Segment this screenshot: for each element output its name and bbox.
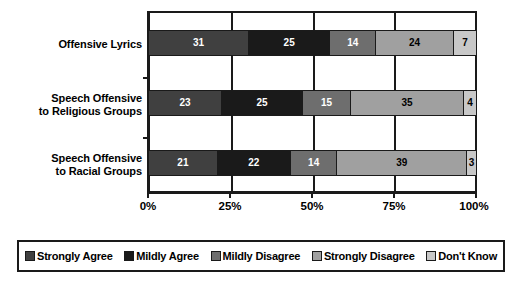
stacked-bar-chart: Offensive Lyrics Speech Offensive to Rel… [0,0,521,291]
bar-segment-value: 25 [284,38,295,48]
x-tick-100 [475,192,477,198]
y-minor-tick-2 [143,137,149,139]
bar-segment: 14 [291,150,338,176]
bar-row: 232515354 [148,90,477,116]
bar-segment-value: 14 [308,158,319,168]
category-label-line: Speech Offensive [8,152,142,165]
chart-legend: Strongly AgreeMildly AgreeMildly Disagre… [17,240,505,272]
x-tick-label-25: 25% [200,200,260,212]
legend-swatch-icon [211,251,221,261]
bar-row: 312514247 [148,30,477,56]
legend-swatch-icon [426,251,436,261]
bar-row: 212214393 [148,150,477,176]
x-tick-label-100: 100% [444,200,504,212]
legend-label: Strongly Disagree [324,250,415,262]
bar-segment-value: 21 [177,158,188,168]
bar-segment-value: 24 [409,38,420,48]
bar-segment-value: 25 [256,98,267,108]
bar-segment: 25 [249,30,330,56]
bar-segment: 21 [148,150,218,176]
legend-item[interactable]: Mildly Agree [124,250,199,262]
bar-segment: 35 [351,90,464,116]
category-label-line: to Religious Groups [8,105,142,118]
category-label-line: Speech Offensive [8,92,142,105]
legend-item[interactable]: Mildly Disagree [211,250,301,262]
bar-segment: 39 [337,150,467,176]
bar-segment-value: 39 [396,158,407,168]
category-label-offensive-lyrics: Offensive Lyrics [8,38,142,51]
x-tick-25 [229,192,231,198]
bar-segment: 25 [222,90,303,116]
bar-segment-value: 7 [462,38,468,48]
bar-segment: 24 [376,30,454,56]
legend-swatch-icon [25,251,35,261]
bar-segment: 14 [330,30,376,56]
bar-segment-value: 23 [180,98,191,108]
legend-swatch-icon [124,251,134,261]
legend-item[interactable]: Strongly Agree [25,250,113,262]
bar-segment: 22 [218,150,291,176]
x-tick-label-50: 50% [282,200,342,212]
bar-segment-value: 22 [248,158,259,168]
bar-segment-value: 31 [193,38,204,48]
category-label-line: Offensive Lyrics [8,38,142,51]
category-label-religious-groups: Speech Offensive to Religious Groups [8,92,142,118]
bar-segment: 7 [454,30,477,56]
x-tick-50 [311,192,313,198]
x-tick-label-0: 0% [118,200,178,212]
category-label-racial-groups: Speech Offensive to Racial Groups [8,152,142,178]
legend-swatch-icon [312,251,322,261]
legend-label: Mildly Agree [136,250,199,262]
bar-segment: 31 [148,30,249,56]
bar-segment-value: 4 [467,98,473,108]
bar-segment-value: 15 [321,98,332,108]
bar-segment-value: 35 [402,98,413,108]
legend-item[interactable]: Strongly Disagree [312,250,415,262]
bar-segment-value: 3 [469,158,475,168]
x-tick-0 [147,192,149,198]
y-minor-tick-1 [143,77,149,79]
bar-segment-value: 14 [347,38,358,48]
bar-segment: 3 [467,150,477,176]
category-label-line: to Racial Groups [8,165,142,178]
legend-label: Strongly Agree [37,250,113,262]
bar-segment: 15 [303,90,351,116]
bar-segment: 23 [148,90,222,116]
legend-label: Mildly Disagree [223,250,301,262]
x-tick-75 [393,192,395,198]
x-tick-label-75: 75% [364,200,424,212]
legend-label: Don't Know [438,250,497,262]
bar-segment: 4 [464,90,477,116]
legend-item[interactable]: Don't Know [426,250,497,262]
